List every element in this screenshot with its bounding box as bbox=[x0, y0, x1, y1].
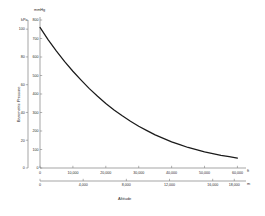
plot-surface: 0100200300400500600700800020406080100010… bbox=[0, 0, 265, 216]
svg-text:700: 700 bbox=[32, 37, 38, 41]
svg-text:16,000: 16,000 bbox=[207, 183, 218, 187]
svg-text:500: 500 bbox=[32, 74, 38, 78]
svg-text:40: 40 bbox=[21, 111, 25, 115]
svg-text:80: 80 bbox=[21, 55, 25, 59]
svg-text:18,000: 18,000 bbox=[229, 183, 240, 187]
svg-text:400: 400 bbox=[32, 92, 38, 96]
svg-text:0: 0 bbox=[23, 166, 25, 170]
svg-text:0: 0 bbox=[39, 171, 41, 175]
svg-text:100: 100 bbox=[32, 148, 38, 152]
svg-text:800: 800 bbox=[32, 18, 38, 22]
barometric-pressure-chart: mmHg kPa ft m Altitude Barometric Pressu… bbox=[0, 0, 265, 216]
pressure-curve bbox=[40, 27, 237, 158]
svg-text:10,000: 10,000 bbox=[67, 171, 78, 175]
svg-text:12,000: 12,000 bbox=[164, 183, 175, 187]
svg-text:100: 100 bbox=[19, 27, 25, 31]
svg-text:60: 60 bbox=[21, 83, 25, 87]
svg-text:4,000: 4,000 bbox=[79, 183, 88, 187]
svg-text:30,000: 30,000 bbox=[133, 171, 144, 175]
svg-text:0: 0 bbox=[39, 183, 41, 187]
svg-text:300: 300 bbox=[32, 111, 38, 115]
svg-text:50,000: 50,000 bbox=[199, 171, 210, 175]
svg-text:600: 600 bbox=[32, 55, 38, 59]
svg-text:200: 200 bbox=[32, 129, 38, 133]
svg-text:20: 20 bbox=[21, 139, 25, 143]
svg-text:8,000: 8,000 bbox=[122, 183, 131, 187]
svg-text:60,000: 60,000 bbox=[232, 171, 243, 175]
svg-text:40,000: 40,000 bbox=[166, 171, 177, 175]
svg-text:20,000: 20,000 bbox=[100, 171, 111, 175]
